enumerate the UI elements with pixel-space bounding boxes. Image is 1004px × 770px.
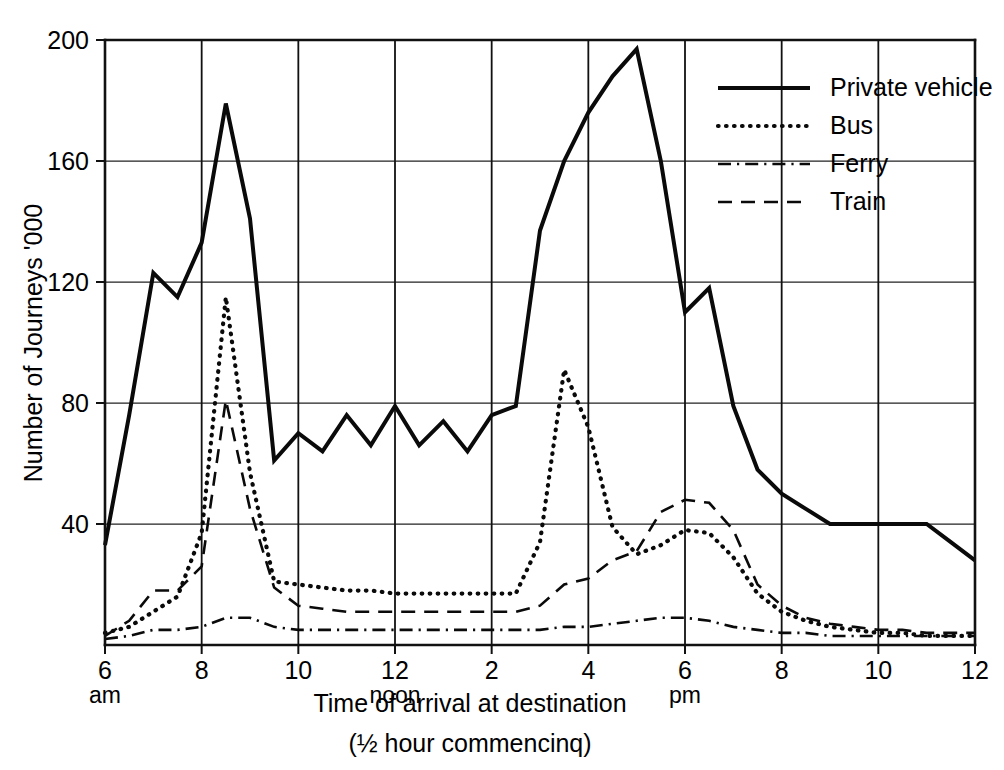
series-line-bus xyxy=(105,297,975,636)
x-tick-label: 2 xyxy=(485,656,499,684)
x-tick-label: 6 xyxy=(98,656,112,684)
legend-label-private-vehicle: Private vehicle xyxy=(830,73,993,101)
legend-label-ferry: Ferry xyxy=(830,149,889,177)
x-tick-label: 6 xyxy=(678,656,692,684)
x-tick-label: 12 xyxy=(381,656,409,684)
chart-legend: Private vehicleBusFerryTrain xyxy=(718,73,993,215)
x-tick-label: 8 xyxy=(775,656,789,684)
legend-label-bus: Bus xyxy=(830,111,873,139)
x-tick-sublabel: am xyxy=(89,682,121,708)
x-tick-label: 12 xyxy=(961,656,989,684)
y-tick-label: 120 xyxy=(47,268,89,296)
series-line-train xyxy=(105,400,975,636)
y-tick-label: 160 xyxy=(47,147,89,175)
x-tick-label: 4 xyxy=(581,656,595,684)
x-tick-label: 10 xyxy=(284,656,312,684)
x-axis-title: Time of arrival at destination xyxy=(313,689,626,717)
y-tick-label: 200 xyxy=(47,26,89,54)
x-axis-subtitle: (½ hour commencinq) xyxy=(348,729,591,757)
x-tick-label: 10 xyxy=(864,656,892,684)
x-tick-label: 8 xyxy=(195,656,209,684)
y-axis-title: Number of Journeys '000 xyxy=(19,204,47,483)
chart-figure: 40801201602006am81012noon246pm81012 Priv… xyxy=(0,0,1004,770)
y-tick-label: 80 xyxy=(61,389,89,417)
line-chart: 40801201602006am81012noon246pm81012 Priv… xyxy=(0,0,1004,770)
x-tick-sublabel: pm xyxy=(669,682,701,708)
y-tick-label: 40 xyxy=(61,510,89,538)
legend-label-train: Train xyxy=(830,187,886,215)
